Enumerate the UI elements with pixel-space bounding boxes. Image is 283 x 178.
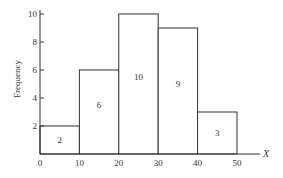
y-tick-label: 8 bbox=[33, 37, 38, 47]
y-tick-label: 4 bbox=[33, 93, 38, 103]
x-axis-variable: X bbox=[262, 148, 270, 159]
bar-value-label: 2 bbox=[57, 135, 62, 145]
y-tick-label: 10 bbox=[28, 9, 38, 19]
bar-value-label: 9 bbox=[176, 79, 181, 89]
histogram-bar bbox=[158, 28, 197, 154]
histogram-chart: 261093 246810 01020304050 Frequency X bbox=[0, 0, 283, 178]
bar-value-label: 3 bbox=[215, 128, 220, 138]
histogram-bar bbox=[79, 70, 118, 154]
bar-value-label: 6 bbox=[97, 100, 102, 110]
x-tick-label: 30 bbox=[154, 158, 164, 168]
x-tick-label: 10 bbox=[75, 158, 85, 168]
bar-value-label: 10 bbox=[134, 72, 144, 82]
x-tick-label: 20 bbox=[114, 158, 124, 168]
y-axis-title: Frequency bbox=[12, 60, 22, 98]
x-tick-label: 0 bbox=[38, 158, 43, 168]
x-tick-label: 50 bbox=[233, 158, 243, 168]
y-ticks: 246810 bbox=[28, 9, 44, 131]
y-tick-label: 6 bbox=[33, 65, 38, 75]
x-ticks: 01020304050 bbox=[38, 158, 242, 168]
histogram-bar bbox=[119, 14, 158, 154]
y-tick-label: 2 bbox=[33, 121, 38, 131]
x-tick-label: 40 bbox=[193, 158, 203, 168]
histogram-bars: 261093 bbox=[40, 14, 237, 154]
